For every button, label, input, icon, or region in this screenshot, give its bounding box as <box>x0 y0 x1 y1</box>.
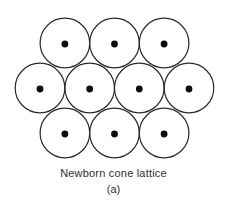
cone-center-dot <box>161 41 168 48</box>
cone-center-dot <box>37 86 44 93</box>
cone-center-dot <box>111 131 118 138</box>
cone-center-dot <box>136 86 143 93</box>
cone-center-dot <box>62 131 69 138</box>
cone-center-dot <box>161 131 168 138</box>
cone-center-dot <box>86 86 93 93</box>
figure-newborn-cone-lattice: Newborn cone lattice (a) <box>0 0 227 201</box>
cone-lattice-diagram <box>0 0 227 162</box>
figure-sublabel: (a) <box>0 183 227 196</box>
cone-center-dot <box>186 86 193 93</box>
cone-center-dot <box>111 41 118 48</box>
figure-caption: Newborn cone lattice <box>0 167 227 180</box>
cone-lattice-circles <box>15 18 214 158</box>
cone-center-dot <box>62 41 69 48</box>
